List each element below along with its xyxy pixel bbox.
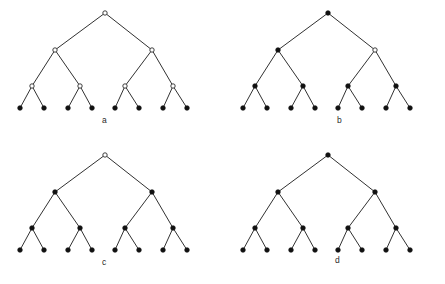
tree-edge xyxy=(68,86,80,108)
tree-node-level2 xyxy=(301,84,306,89)
tree-edge xyxy=(243,228,255,250)
tree-edge xyxy=(152,50,173,86)
tree-node-level1 xyxy=(150,48,154,52)
tree-edge xyxy=(55,50,80,86)
tree-node-leaf xyxy=(18,248,23,253)
tree-edge xyxy=(80,86,92,108)
tree-edge xyxy=(173,228,187,250)
tree-edge xyxy=(173,86,187,108)
tree-node-leaf xyxy=(90,106,95,111)
tree-edge xyxy=(348,86,362,108)
tree-edge xyxy=(32,192,55,228)
tree-node-level2 xyxy=(30,226,35,231)
tree-node-level1 xyxy=(53,48,57,52)
tree-panel-b: b xyxy=(223,0,445,142)
tree-node-level1 xyxy=(150,190,155,195)
tree-edge xyxy=(348,228,362,250)
tree-edge xyxy=(386,228,396,250)
tree-node-leaf xyxy=(137,106,142,111)
tree-edge xyxy=(338,86,348,108)
tree-node-level2 xyxy=(394,84,399,89)
tree-edge xyxy=(55,192,80,228)
tree-node-level2 xyxy=(78,226,83,231)
figure-canvas: a b c d xyxy=(0,0,445,284)
tree-node-level1 xyxy=(53,190,58,195)
tree-edge xyxy=(125,50,152,86)
tree-node-leaf xyxy=(90,248,95,253)
tree-node-level2 xyxy=(171,84,175,88)
tree-node-leaf xyxy=(384,106,389,111)
tree-node-level2 xyxy=(78,84,82,88)
tree-edge xyxy=(338,228,348,250)
tree-node-leaf xyxy=(185,248,190,253)
tree-edge xyxy=(291,86,303,108)
tree-edge xyxy=(303,228,315,250)
tree-edge xyxy=(278,155,328,192)
tree-node-leaf xyxy=(66,248,71,253)
tree-node-leaf xyxy=(185,106,190,111)
panel-label-d: d xyxy=(335,256,340,265)
tree-node-level2 xyxy=(346,84,351,89)
tree-node-level2 xyxy=(253,226,258,231)
tree-edge xyxy=(68,228,80,250)
tree-node-root xyxy=(326,11,331,16)
tree-node-leaf xyxy=(42,248,47,253)
tree-node-leaf xyxy=(241,248,246,253)
tree-edge xyxy=(386,86,396,108)
tree-edge xyxy=(348,192,375,228)
tree-node-level2 xyxy=(394,226,399,231)
tree-edge xyxy=(32,50,55,86)
tree-node-leaf xyxy=(265,106,270,111)
tree-edge xyxy=(163,86,173,108)
tree-node-leaf xyxy=(265,248,270,253)
tree-node-leaf xyxy=(289,106,294,111)
tree-edge xyxy=(303,86,315,108)
tree-node-root xyxy=(326,153,331,158)
tree-edge xyxy=(328,13,375,50)
tree-edge xyxy=(328,155,375,192)
tree-node-leaf xyxy=(360,248,365,253)
tree-node-level2 xyxy=(346,226,351,231)
tree-edge xyxy=(55,13,105,50)
tree-node-level1 xyxy=(373,48,377,52)
tree-node-leaf xyxy=(161,248,166,253)
tree-edge xyxy=(255,50,278,86)
tree-panel-c: c xyxy=(0,142,222,284)
tree-edge xyxy=(278,50,303,86)
tree-edge xyxy=(375,50,396,86)
tree-node-level1 xyxy=(276,48,281,53)
tree-edge xyxy=(125,228,139,250)
tree-edge xyxy=(255,192,278,228)
tree-node-leaf xyxy=(360,106,365,111)
tree-panel-d: d xyxy=(223,142,445,284)
tree-node-leaf xyxy=(113,248,118,253)
tree-node-leaf xyxy=(161,106,166,111)
tree-edge xyxy=(55,155,105,192)
tree-node-leaf xyxy=(336,106,341,111)
tree-node-level2 xyxy=(253,84,258,89)
panel-label-c: c xyxy=(102,258,106,267)
tree-edge xyxy=(243,86,255,108)
panel-label-b: b xyxy=(337,116,342,125)
tree-node-leaf xyxy=(313,248,318,253)
tree-edge xyxy=(20,228,32,250)
tree-node-leaf xyxy=(137,248,142,253)
tree-edge xyxy=(105,155,152,192)
tree-node-level2 xyxy=(123,84,127,88)
tree-edge xyxy=(375,192,396,228)
tree-node-leaf xyxy=(408,248,413,253)
tree-node-root xyxy=(103,11,107,15)
tree-node-leaf xyxy=(18,106,23,111)
tree-node-level2 xyxy=(171,226,176,231)
tree-node-leaf xyxy=(313,106,318,111)
tree-edge xyxy=(255,86,267,108)
tree-node-leaf xyxy=(42,106,47,111)
tree-edge xyxy=(348,50,375,86)
tree-edge xyxy=(125,86,139,108)
tree-panel-a: a xyxy=(0,0,222,142)
tree-edge xyxy=(20,86,32,108)
tree-edge xyxy=(32,86,44,108)
tree-edge xyxy=(152,192,173,228)
tree-edge xyxy=(163,228,173,250)
tree-diagram-c xyxy=(0,142,222,284)
